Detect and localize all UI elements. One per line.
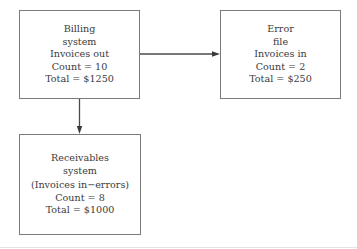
bottom-divider bbox=[0, 247, 357, 248]
billing-system-node: Billing system Invoices out Count = 10 T… bbox=[19, 10, 140, 99]
node-description: Invoices in bbox=[254, 48, 307, 61]
node-description: (Invoices in−errors) bbox=[31, 179, 129, 192]
receivables-system-node: Receivables system (Invoices in−errors) … bbox=[19, 134, 141, 235]
node-count: Count = 10 bbox=[52, 61, 108, 74]
node-count: Count = 2 bbox=[256, 61, 306, 74]
node-total: Total = $250 bbox=[249, 73, 312, 86]
node-description: Invoices out bbox=[50, 48, 109, 61]
error-file-node: Error file Invoices in Count = 2 Total =… bbox=[220, 10, 341, 99]
node-title: Billing bbox=[64, 23, 96, 36]
node-title: Receivables bbox=[51, 152, 109, 165]
node-subtitle: file bbox=[273, 36, 288, 49]
arrow-billing-to-error bbox=[140, 51, 220, 56]
diagram-canvas: Billing system Invoices out Count = 10 T… bbox=[0, 0, 357, 249]
node-count: Count = 8 bbox=[55, 192, 105, 205]
arrow-billing-to-receivables bbox=[77, 99, 82, 134]
node-subtitle: system bbox=[63, 36, 97, 49]
node-total: Total = $1000 bbox=[46, 204, 115, 217]
node-title: Error bbox=[267, 23, 294, 36]
node-total: Total = $1250 bbox=[45, 73, 114, 86]
node-subtitle: system bbox=[63, 165, 97, 178]
